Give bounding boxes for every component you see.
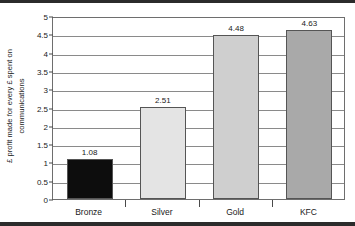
bar-kfc[interactable]	[286, 30, 332, 199]
bar-slot: 2.51	[126, 18, 199, 199]
y-tick-label: 3	[44, 86, 48, 95]
y-tick-mark	[49, 17, 53, 18]
x-tick-label-kfc: KFC	[300, 207, 317, 217]
y-tick-mark	[49, 90, 53, 91]
y-axis-title-line-1: £ profit made for every £ spent on	[5, 49, 14, 163]
y-tick-label: 5	[44, 13, 48, 22]
chart-figure: £ profit made for every £ spent on commu…	[0, 0, 355, 226]
bar-value-label: 1.08	[82, 148, 98, 157]
x-tick-mark	[272, 200, 273, 207]
x-tick-label-silver: Silver	[151, 207, 172, 217]
bar-value-label: 4.63	[302, 19, 318, 28]
bar-gold[interactable]	[213, 35, 259, 199]
x-tick-mark	[125, 200, 126, 207]
y-tick-mark	[49, 200, 53, 201]
bar-slot: 4.48	[200, 18, 273, 199]
y-tick-label: 3.5	[37, 67, 48, 76]
y-tick-label: 0	[44, 196, 48, 205]
y-tick-mark	[49, 108, 53, 109]
bar-value-label: 2.51	[155, 96, 171, 105]
bar-silver[interactable]	[140, 107, 186, 199]
y-tick-label: 0.5	[37, 177, 48, 186]
x-tick-label-gold: Gold	[226, 207, 244, 217]
y-tick-label: 1	[44, 159, 48, 168]
y-axis-title: £ profit made for every £ spent on commu…	[0, 6, 28, 206]
bar-value-label: 4.48	[228, 24, 244, 33]
bar-series: 1.082.514.484.63	[53, 18, 344, 199]
y-tick-mark	[49, 181, 53, 182]
x-axis-tick-labels: BronzeSilverGoldKFC	[52, 207, 345, 223]
x-tick-label-bronze: Bronze	[75, 207, 102, 217]
bar-slot: 1.08	[53, 18, 126, 199]
bar-slot: 4.63	[273, 18, 346, 199]
y-axis-title-line-2: communications	[17, 79, 26, 134]
y-tick-mark	[49, 53, 53, 54]
y-tick-mark	[49, 126, 53, 127]
y-axis-tick-labels: 00.511.522.533.544.55	[26, 3, 48, 226]
bar-bronze[interactable]	[67, 159, 113, 199]
y-tick-label: 1.5	[37, 141, 48, 150]
y-tick-label: 2.5	[37, 104, 48, 113]
x-tick-mark	[199, 200, 200, 207]
y-tick-label: 2	[44, 122, 48, 131]
y-tick-mark	[49, 145, 53, 146]
y-tick-label: 4.5	[37, 31, 48, 40]
plot-area: 1.082.514.484.63	[52, 17, 345, 200]
y-tick-mark	[49, 163, 53, 164]
y-tick-mark	[49, 35, 53, 36]
y-tick-label: 4	[44, 49, 48, 58]
y-tick-mark	[49, 71, 53, 72]
x-axis-ticks	[52, 200, 345, 207]
